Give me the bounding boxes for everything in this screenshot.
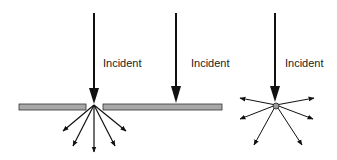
- incident-label-particle: Incident: [285, 57, 324, 69]
- incident-label-plate: Incident: [191, 57, 230, 69]
- panel-aperture: [19, 13, 222, 152]
- incident-arrowhead-icon: [270, 86, 280, 102]
- panel-particle: [240, 13, 314, 145]
- diagram-canvas: [0, 0, 337, 160]
- right-plate: [103, 104, 222, 110]
- diffracted-rays: [63, 105, 126, 152]
- incident-arrowhead-icon: [171, 86, 181, 103]
- panel-opaque-plate: [171, 13, 181, 103]
- incident-label-aperture: Incident: [103, 57, 142, 69]
- left-plate: [19, 104, 86, 110]
- incident-arrowhead-icon: [89, 88, 99, 104]
- scattering-particle: [273, 103, 279, 109]
